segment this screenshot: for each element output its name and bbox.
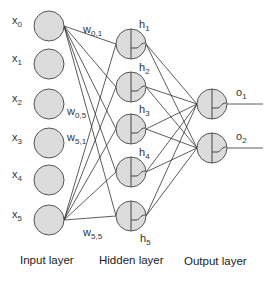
node-h5 [116, 201, 146, 231]
edge-x0-h5 [64, 26, 116, 216]
weight-label-2: w5,1 [66, 131, 87, 146]
node-h4 [116, 157, 146, 187]
weight-labels: w0,1w0,5w5,1w5,5 [66, 23, 103, 241]
edge-x0-h4 [64, 26, 116, 172]
weight-label-3: w5,5 [82, 226, 103, 241]
input-layer-label: Input layer [20, 254, 74, 266]
label-h1: h1 [139, 18, 150, 33]
output-layer-label: Output layer [184, 255, 247, 267]
edge-h1-o1 [146, 44, 197, 104]
label-h3: h3 [139, 103, 150, 118]
label-o1: o1 [236, 86, 247, 101]
label-x3: x3 [12, 131, 23, 146]
edge-x5-h5 [64, 216, 116, 220]
weight-label-0: w0,1 [82, 23, 103, 38]
neural-network-diagram: x0x1x2x3x4x5h1h2h3h4h5o1o2 w0,1w0,5w5,1w… [0, 0, 267, 281]
node-circle [34, 11, 64, 41]
node-x0 [34, 11, 64, 41]
node-o2 [197, 133, 227, 163]
weight-label-1: w0,5 [66, 105, 87, 120]
label-x0: x0 [12, 14, 23, 29]
label-h4: h4 [139, 146, 150, 161]
network-nodes [34, 11, 227, 235]
edge-h3-o1 [146, 104, 197, 129]
node-o1 [197, 89, 227, 119]
edge-h5-o1 [146, 104, 197, 216]
node-h1 [116, 29, 146, 59]
label-x4: x4 [12, 168, 23, 183]
node-circle [34, 205, 64, 235]
label-o2: o2 [236, 130, 247, 145]
edge-x5-h4 [64, 172, 116, 220]
label-h2: h2 [139, 61, 150, 76]
node-x5 [34, 205, 64, 235]
node-circle [34, 89, 64, 119]
label-x1: x1 [12, 52, 23, 67]
hidden-layer-label: Hidden layer [99, 254, 164, 266]
node-x2 [34, 89, 64, 119]
connection-edges [64, 26, 263, 220]
node-x4 [34, 165, 64, 195]
node-h3 [116, 114, 146, 144]
node-h2 [116, 72, 146, 102]
edge-h5-o2 [146, 148, 197, 216]
edge-h4-o1 [146, 104, 197, 172]
label-h5: h5 [140, 232, 151, 247]
node-circle [34, 128, 64, 158]
layer-labels: Input layer Hidden layer Output layer [20, 254, 247, 267]
label-x2: x2 [12, 92, 23, 107]
node-circle [34, 165, 64, 195]
node-x1 [34, 49, 64, 79]
node-x3 [34, 128, 64, 158]
label-x5: x5 [12, 208, 23, 223]
node-circle [34, 49, 64, 79]
